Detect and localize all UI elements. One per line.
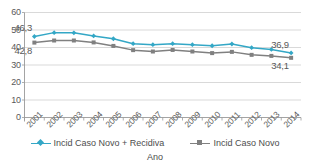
legend-label: Incid Caso Novo + Recidiva xyxy=(54,138,165,148)
data-point-label: 34,1 xyxy=(271,61,289,71)
legend-marker-square-icon xyxy=(190,139,210,148)
chart-legend: Incid Caso Novo + Recidiva Incid Caso No… xyxy=(0,136,310,150)
legend-marker-diamond-icon xyxy=(31,139,51,148)
series-layer xyxy=(32,30,294,60)
legend-item-incid-caso-novo[interactable]: Incid Caso Novo xyxy=(190,138,279,148)
data-point-label: 46,3 xyxy=(14,23,32,33)
y-axis-tick-label: 0 xyxy=(1,113,21,122)
y-axis-tick-label: 60 xyxy=(1,8,21,17)
y-axis-tick-label: 20 xyxy=(1,78,21,87)
y-axis-tick-label: 10 xyxy=(1,96,21,105)
legend-item-incid-caso-novo-recidiva[interactable]: Incid Caso Novo + Recidiva xyxy=(31,138,165,148)
gridlines xyxy=(25,13,302,118)
x-axis-title: Ano xyxy=(0,152,310,162)
legend-label: Incid Caso Novo xyxy=(213,138,279,148)
data-point-label: 36,9 xyxy=(271,40,289,50)
data-point-label: 42,8 xyxy=(14,46,32,56)
line-chart: 6050403020100 20012002200320042005200620… xyxy=(0,0,310,168)
y-axis-tick-label: 30 xyxy=(1,61,21,70)
